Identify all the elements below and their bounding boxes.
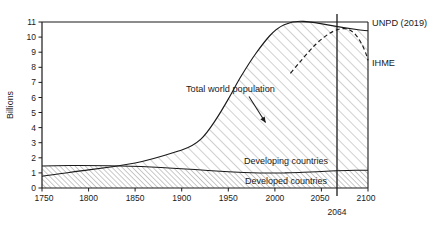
y-tick-label-8: 8 — [31, 62, 36, 72]
total-world-population-callout-label: Total world population — [186, 84, 275, 94]
y-tick-label-11: 11 — [27, 17, 36, 27]
y-tick-label-6: 6 — [31, 93, 36, 103]
y-tick-label-2: 2 — [31, 153, 36, 163]
x-tick-label-1950: 1950 — [219, 193, 238, 203]
x-tick-label-1900: 1900 — [172, 193, 191, 203]
y-tick-label-7: 7 — [31, 77, 36, 87]
y-tick-label-3: 3 — [31, 138, 36, 148]
x-tick-label-2050: 2050 — [311, 193, 330, 203]
unpd-series-label: UNPD (2019) — [372, 18, 427, 28]
developing-countries-label: Developing countries — [244, 156, 329, 166]
x-tick-label-2000: 2000 — [265, 193, 284, 203]
x-tick-label-1750: 1750 — [35, 193, 54, 203]
chart-canvas: 0 1 2 3 4 5 6 7 8 9 10 11 Billions 1750 … — [0, 0, 437, 236]
y-tick-label-1: 1 — [31, 168, 36, 178]
y-tick-label-9: 9 — [31, 47, 36, 57]
ihme-series-label: IHME — [372, 58, 395, 68]
y-tick-label-10: 10 — [27, 32, 37, 42]
x-tick-label-2100: 2100 — [357, 193, 376, 203]
developed-countries-label: Developed countries — [245, 176, 328, 186]
population-projection-chart: 0 1 2 3 4 5 6 7 8 9 10 11 Billions 1750 … — [0, 0, 437, 236]
y-tick-label-0: 0 — [31, 183, 36, 193]
y-axis-title: Billions — [5, 90, 15, 118]
year-2064-marker-label: 2064 — [328, 207, 347, 217]
x-tick-label-1800: 1800 — [79, 193, 98, 203]
y-tick-label-4: 4 — [31, 123, 36, 133]
x-tick-label-1850: 1850 — [126, 193, 145, 203]
y-tick-label-5: 5 — [31, 108, 36, 118]
